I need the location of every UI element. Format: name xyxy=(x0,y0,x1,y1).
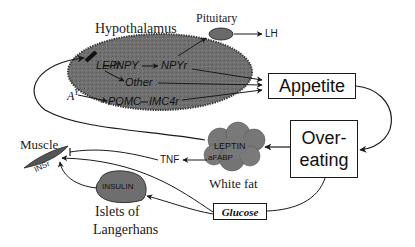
overeating-box: Over- eating xyxy=(290,120,358,178)
lh-label: LH xyxy=(265,28,278,39)
other-node: Other xyxy=(125,76,153,88)
pituitary-ellipse xyxy=(209,28,233,40)
white-fat-label: White fat xyxy=(209,176,258,192)
inpy-node: INPY xyxy=(113,59,139,71)
appetite-box: Appetite xyxy=(268,73,356,99)
ay-node: AY xyxy=(67,88,79,104)
afabp-label: aFABP xyxy=(208,153,233,162)
glucose-box: Glucose xyxy=(213,203,267,220)
hypothalamus-label: Hypothalamus xyxy=(95,21,177,37)
npyr-node: NPYr xyxy=(161,59,187,71)
leptin-label: LEPTIN xyxy=(214,141,246,151)
pomc-node: POMC xyxy=(108,95,141,107)
overeating-line2: eating xyxy=(299,149,348,171)
imc4r-node: IMC4r xyxy=(149,95,179,107)
ay-superscript: Y xyxy=(74,88,78,97)
pituitary-label: Pituitary xyxy=(196,11,237,26)
overeating-line1: Over- xyxy=(302,127,347,149)
islets-line1: Islets of xyxy=(95,204,140,220)
islets-line2: Langerhans xyxy=(93,222,158,238)
tnf-label: TNF xyxy=(160,154,179,165)
muscle-label: Muscle xyxy=(20,137,58,153)
insulin-label: INSULIN xyxy=(102,182,134,191)
